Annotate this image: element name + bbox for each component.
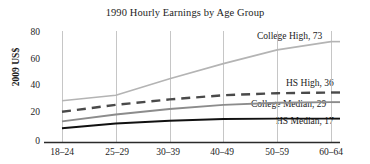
- chart-container: 1990 Hourly Earnings by Age Group 2009 U…: [0, 0, 370, 164]
- series-line-hs-median: [62, 119, 331, 129]
- series-lines-group: [62, 42, 340, 129]
- plot-area: [0, 0, 370, 164]
